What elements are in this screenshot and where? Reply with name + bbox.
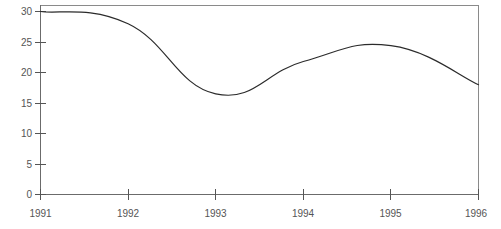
x-tick-label-1992: 1992 — [117, 208, 140, 219]
y-tick-label-4: 20 — [21, 67, 33, 78]
x-tick-label-1994: 1994 — [292, 208, 315, 219]
x-tick-label-1996: 1996 — [465, 208, 488, 219]
y-tick-label-0: 0 — [26, 189, 32, 200]
x-tick-label-1991: 1991 — [29, 208, 52, 219]
line-chart: 0 5 10 15 20 25 30 1991 1992 1993 1994 — [0, 0, 501, 229]
y-tick-label-5: 25 — [21, 37, 33, 48]
y-tick-label-2: 10 — [21, 128, 33, 139]
y-tick-label-1: 5 — [26, 159, 32, 170]
x-tick-label-1993: 1993 — [204, 208, 227, 219]
chart-container: 0 5 10 15 20 25 30 1991 1992 1993 1994 — [0, 0, 501, 229]
y-tick-label-3: 15 — [21, 98, 33, 109]
y-tick-label-6: 30 — [21, 6, 33, 17]
x-tick-label-1995: 1995 — [379, 208, 402, 219]
